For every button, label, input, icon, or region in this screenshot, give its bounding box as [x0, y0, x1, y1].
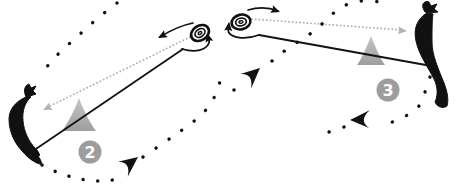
cone-mark-icon-left — [62, 98, 96, 131]
leg-line-and-rounding-arrow-left — [30, 23, 213, 153]
mark-rounding-diagram: 2 3 — [0, 0, 458, 184]
step-badge-2: 2 — [79, 141, 102, 164]
course-direction-arrow-icon-1 — [117, 151, 144, 177]
buoy-top-view-icon-left — [188, 22, 212, 44]
next-leg-dotted-arrow-right — [252, 19, 407, 35]
step-number-2: 2 — [84, 143, 95, 162]
diagram-canvas: 2 3 — [0, 0, 458, 184]
course-direction-arrow-icon-3 — [350, 110, 370, 128]
buoy-top-view-icon-right — [230, 13, 252, 31]
step-badge-3: 3 — [377, 79, 400, 102]
step-number-3: 3 — [382, 81, 393, 100]
course-direction-arrow-icon-2 — [240, 62, 267, 89]
course-dot — [232, 88, 236, 92]
windsurfer-silhouette-left — [9, 84, 41, 164]
leg-line-and-rounding-arrow-right — [224, 5, 437, 67]
windsurfer-silhouette-right — [415, 2, 448, 108]
next-leg-dotted-arrow-left — [41, 37, 190, 114]
cone-mark-icon-right — [357, 36, 385, 65]
